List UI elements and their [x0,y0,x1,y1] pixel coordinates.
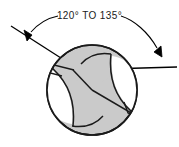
left-leader-arc [31,16,58,32]
angle-dimension-label: 120° TO 135° [57,10,122,21]
right-leader-arc [121,16,157,48]
technical-drawing-canvas: 120° TO 135° [0,0,179,147]
right-arrowhead [154,46,162,57]
drill-point-angle-figure: 120° TO 135° [0,0,179,147]
